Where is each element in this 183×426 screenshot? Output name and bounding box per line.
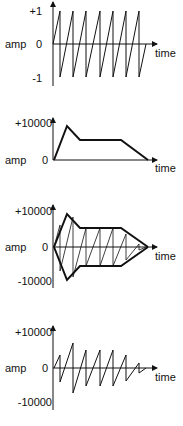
y-max-label: +10000 <box>15 205 52 217</box>
x-axis-label: time <box>155 47 176 59</box>
x-axis-label: time <box>155 162 176 174</box>
y-axis-label: amp <box>5 38 26 50</box>
y-axis-label: amp <box>5 241 26 253</box>
sawtooth-wave <box>53 11 146 77</box>
y-min-label: -1 <box>32 72 42 84</box>
y-min-label: -10000 <box>18 396 52 408</box>
x-axis-label: time <box>155 371 176 383</box>
panel-envelope: +10000 0 amp time <box>5 117 176 174</box>
y-zero-label: 0 <box>36 38 42 50</box>
y-max-label: +10000 <box>15 117 52 129</box>
panel-envelope-overlay: +10000 0 -10000 amp time <box>5 205 176 288</box>
y-axis-label: amp <box>5 362 26 374</box>
panel-enveloped-sawtooth: +10000 0 -10000 amp time <box>5 326 176 410</box>
panel-sawtooth: +1 0 -1 amp time <box>5 2 176 86</box>
y-axis-label: amp <box>5 154 26 166</box>
amplitude-envelope <box>54 126 148 160</box>
y-min-label: -10000 <box>18 275 52 287</box>
x-axis-label: time <box>155 250 176 262</box>
y-max-label: +10000 <box>15 326 52 338</box>
y-zero-label: 0 <box>42 362 48 374</box>
y-max-label: +1 <box>29 5 42 17</box>
y-zero-label: 0 <box>42 241 48 253</box>
waveform-diagram: +1 0 -1 amp time +10000 0 amp time +1000… <box>0 0 183 426</box>
upper-envelope <box>54 214 148 247</box>
y-zero-label: 0 <box>42 154 48 166</box>
